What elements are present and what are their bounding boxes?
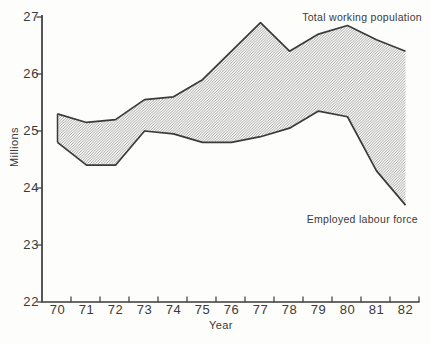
y-axis-title: Millions bbox=[8, 117, 20, 177]
x-tick-label: 73 bbox=[131, 303, 159, 317]
x-tick-label: 77 bbox=[247, 303, 275, 317]
y-tick-label: 26 bbox=[13, 67, 39, 81]
x-tick-label: 71 bbox=[73, 303, 101, 317]
x-tick-label: 78 bbox=[276, 303, 304, 317]
y-tick-label: 22 bbox=[13, 295, 39, 309]
series-label-employed-labour-force: Employed labour force bbox=[307, 214, 418, 226]
x-tick-label: 82 bbox=[392, 303, 420, 317]
x-tick-label: 76 bbox=[218, 303, 246, 317]
series-label-total-working-population: Total working population bbox=[302, 12, 422, 24]
x-tick-label: 72 bbox=[102, 303, 130, 317]
x-tick-label: 81 bbox=[363, 303, 391, 317]
y-tick-label: 24 bbox=[13, 181, 39, 195]
x-tick-label: 80 bbox=[334, 303, 362, 317]
x-tick-label: 74 bbox=[160, 303, 188, 317]
x-axis-title: Year bbox=[199, 319, 243, 331]
x-tick-label: 79 bbox=[305, 303, 333, 317]
x-tick-label: 70 bbox=[44, 303, 72, 317]
chart-figure: 272625242322 70717273747576777879808182 … bbox=[0, 0, 430, 344]
x-tick-label: 75 bbox=[189, 303, 217, 317]
y-tick-label: 27 bbox=[13, 10, 39, 24]
y-tick-label: 23 bbox=[13, 238, 39, 252]
band-chart-svg bbox=[0, 0, 430, 344]
